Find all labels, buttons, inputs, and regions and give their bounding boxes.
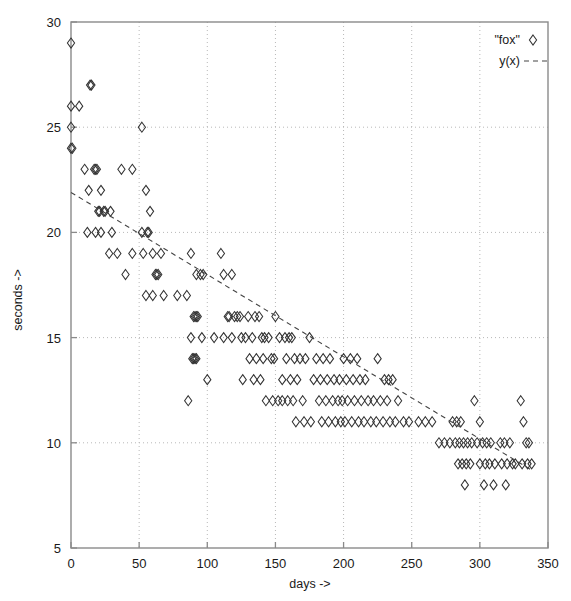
- scatter-plot-figure: 050100150200250300350 51015202530 days -…: [0, 0, 571, 601]
- x-tick-label: 200: [333, 556, 355, 571]
- y-tick-label: 25: [47, 120, 61, 135]
- legend-entry-yx-label: y(x): [499, 54, 520, 68]
- x-tick-label: 150: [265, 556, 287, 571]
- y-tick-label: 20: [47, 225, 61, 240]
- figure-background: [0, 0, 571, 601]
- x-tick-label: 50: [132, 556, 146, 571]
- x-tick-label: 100: [196, 556, 218, 571]
- y-tick-label: 10: [47, 436, 61, 451]
- legend-entry-fox-label: "fox": [494, 33, 520, 47]
- x-tick-label: 350: [537, 556, 559, 571]
- x-tick-label: 250: [401, 556, 423, 571]
- x-tick-label: 0: [67, 556, 74, 571]
- x-axis-title: days ->: [289, 577, 330, 591]
- y-axis-title: seconds ->: [11, 269, 25, 331]
- y-tick-label: 15: [47, 331, 61, 346]
- x-tick-label: 300: [469, 556, 491, 571]
- y-tick-label: 5: [54, 541, 61, 556]
- y-tick-label: 30: [47, 15, 61, 30]
- plot-canvas: 050100150200250300350 51015202530 days -…: [0, 0, 571, 601]
